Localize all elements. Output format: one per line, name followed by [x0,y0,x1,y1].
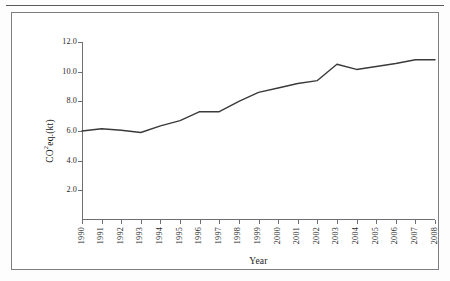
x-tick-mark [82,220,83,224]
x-tick-mark [415,220,416,224]
x-tick-label: 2008 [431,227,439,244]
top-horizontal-rule [6,5,444,6]
y-tick-label: 4.0 [66,157,77,165]
x-tick-mark [396,220,397,224]
x-tick-label: 2006 [391,227,399,244]
x-tick-mark [141,220,142,224]
x-tick-mark [298,220,299,224]
series-line-chart [82,42,435,220]
x-tick-mark [160,220,161,224]
x-tick-label: 2004 [352,227,360,244]
x-tick-label: 1994 [156,227,164,244]
chart-page: CO2eq.(kt) Year 12.010.08.06.04.02.0 199… [0,0,450,281]
x-tick-label: 2000 [274,227,282,244]
x-tick-mark [376,220,377,224]
x-tick-label: 1991 [97,227,105,244]
plot-area: 12.010.08.06.04.02.0 1990199119921993199… [82,42,435,220]
x-tick-mark [337,220,338,224]
x-tick-label: 1993 [136,227,144,244]
y-axis-title-prefix: CO [45,149,55,163]
x-tick-label: 1992 [117,227,125,244]
x-tick-label: 2007 [411,227,419,244]
x-tick-label: 2003 [332,227,340,244]
x-tick-mark [278,220,279,224]
x-tick-label: 2002 [313,227,321,244]
x-tick-label: 2005 [372,227,380,244]
y-tick-label: 10.0 [62,68,77,76]
x-tick-mark [259,220,260,224]
x-tick-mark [357,220,358,224]
x-axis-title: Year [82,256,435,266]
x-tick-label: 1997 [215,227,223,244]
y-tick-label: 6.0 [66,127,77,135]
y-axis-title-superscript: 2 [42,146,49,149]
x-tick-mark [317,220,318,224]
x-tick-label: 1996 [195,227,203,244]
y-tick-label: 8.0 [66,97,77,105]
y-tick-label: 2.0 [66,186,77,194]
y-tick-label: 12.0 [62,38,77,46]
x-tick-mark [121,220,122,224]
series-line-co2eq [82,60,435,133]
x-tick-mark [102,220,103,224]
x-tick-mark [239,220,240,224]
x-tick-label: 1995 [176,227,184,244]
y-axis-title-suffix: eq.(kt) [45,119,55,145]
x-tick-label: 1990 [78,227,86,244]
x-tick-label: 1999 [254,227,262,244]
figure-frame: CO2eq.(kt) Year 12.010.08.06.04.02.0 199… [11,12,439,270]
x-tick-label: 2001 [293,227,301,244]
x-tick-label: 1998 [234,227,242,244]
x-tick-mark [219,220,220,224]
x-tick-mark [200,220,201,224]
x-tick-mark [180,220,181,224]
y-axis-title: CO2eq.(kt) [42,119,55,163]
x-tick-mark [435,220,436,224]
